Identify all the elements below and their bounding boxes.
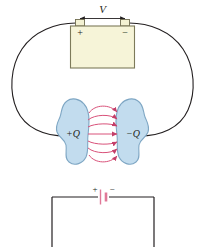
circuit-plus-sign: + — [92, 184, 97, 194]
field-line-7 — [89, 155, 117, 162]
circuit-minus-sign: − — [109, 184, 114, 194]
circuit-schematic-group: + − — [52, 184, 154, 247]
field-line-5 — [88, 141, 117, 144]
physics-figure-capacitor: V + − +Q −Q — [0, 0, 205, 247]
field-line-1 — [89, 106, 117, 113]
field-line-6 — [88, 148, 117, 153]
voltage-label: V — [99, 3, 107, 15]
battery-minus-sign: − — [122, 27, 128, 38]
figure-canvas: V + − +Q −Q — [0, 0, 205, 247]
voltage-dimension-group: V — [80, 3, 125, 19]
conductors-group: +Q −Q — [56, 99, 148, 164]
conductor-left-label: +Q — [66, 128, 81, 139]
battery-terminal-negative — [121, 20, 130, 27]
field-line-2 — [88, 115, 117, 120]
electric-field-lines-group — [88, 106, 117, 162]
conductor-right-label: −Q — [126, 128, 141, 139]
battery-terminal-positive — [76, 20, 85, 27]
battery-symbol-group — [101, 190, 107, 205]
battery-group: + − — [71, 20, 135, 69]
field-line-3 — [88, 124, 117, 127]
battery-plus-sign: + — [77, 27, 83, 38]
